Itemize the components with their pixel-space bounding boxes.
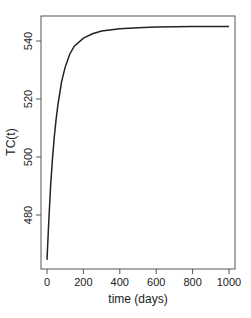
y-axis: 480500520540 bbox=[22, 32, 41, 224]
x-tick-label: 0 bbox=[44, 276, 50, 288]
x-tick-label: 800 bbox=[183, 276, 201, 288]
x-tick-label: 400 bbox=[111, 276, 129, 288]
y-tick-label: 520 bbox=[22, 90, 34, 108]
x-tick-label: 200 bbox=[74, 276, 92, 288]
y-tick-label: 480 bbox=[22, 206, 34, 224]
y-axis-label: TC(t) bbox=[4, 128, 18, 155]
x-tick-label: 1000 bbox=[217, 276, 241, 288]
x-axis-label: time (days) bbox=[108, 292, 167, 306]
x-axis: 02004006008001000 bbox=[44, 269, 241, 288]
x-tick-label: 600 bbox=[147, 276, 165, 288]
y-tick-label: 540 bbox=[22, 32, 34, 50]
y-tick-label: 500 bbox=[22, 148, 34, 166]
chart: 480500520540 02004006008001000 time (day… bbox=[0, 0, 251, 318]
